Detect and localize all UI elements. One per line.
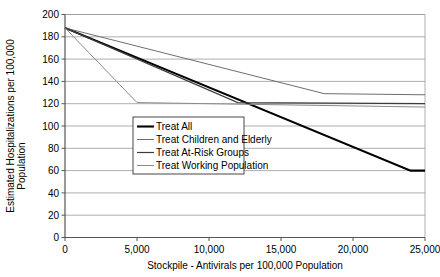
legend: Treat AllTreat Children and ElderlyTreat… bbox=[133, 117, 272, 174]
gridlines bbox=[65, 15, 425, 216]
x-tick-label: 10,000 bbox=[194, 244, 225, 255]
x-tick-label: 25,000 bbox=[410, 244, 440, 255]
series-line bbox=[65, 28, 425, 95]
legend-label: Treat Working Population bbox=[156, 160, 268, 171]
y-tick-label: 120 bbox=[42, 98, 59, 109]
legend-label: Treat Children and Elderly bbox=[156, 134, 272, 145]
y-tick-label: 0 bbox=[53, 232, 59, 243]
line-chart: 02040608010012014016018020005,00010,0001… bbox=[0, 0, 440, 277]
y-axis-title-line1: Estimated Hospitalizations per 100,000 bbox=[5, 39, 16, 213]
x-tick-label: 0 bbox=[62, 244, 68, 255]
x-axis-title: Stockpile - Antivirals per 100,000 Popul… bbox=[147, 260, 343, 271]
y-tick-label: 60 bbox=[48, 165, 60, 176]
x-tick-label: 20,000 bbox=[338, 244, 369, 255]
y-tick-label: 100 bbox=[42, 121, 59, 132]
y-tick-label: 140 bbox=[42, 76, 59, 87]
y-tick-label: 160 bbox=[42, 54, 59, 65]
y-tick-label: 40 bbox=[48, 188, 60, 199]
x-tick-label: 5,000 bbox=[124, 244, 149, 255]
legend-label: Treat At-Risk Groups bbox=[156, 147, 249, 158]
series-line bbox=[65, 28, 425, 107]
y-tick-label: 200 bbox=[42, 9, 59, 20]
series-line bbox=[65, 28, 425, 104]
x-tick-label: 15,000 bbox=[266, 244, 297, 255]
y-axis-ticks: 020406080100120140160180200 bbox=[42, 9, 65, 243]
chart-container: 02040608010012014016018020005,00010,0001… bbox=[0, 0, 440, 277]
y-tick-label: 20 bbox=[48, 210, 60, 221]
y-tick-label: 180 bbox=[42, 31, 59, 42]
legend-label: Treat All bbox=[156, 121, 192, 132]
y-tick-label: 80 bbox=[48, 143, 60, 154]
y-axis-title-line2: Population bbox=[16, 142, 27, 189]
x-axis-ticks: 05,00010,00015,00020,00025,000 bbox=[62, 238, 440, 255]
